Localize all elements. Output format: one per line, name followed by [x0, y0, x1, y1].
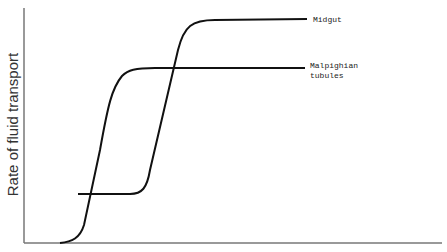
chart-root: Rate of fluid transport Midgut Malpighia… [0, 0, 447, 252]
series-malpighian-tubules [60, 68, 305, 243]
legend-malpighian-line1: Malpighian [310, 61, 358, 71]
legend-malpighian-line2: tubules [310, 71, 358, 81]
legend-midgut: Midgut [313, 15, 342, 25]
y-axis-label: Rate of fluid transport [4, 45, 21, 205]
series-midgut [78, 19, 307, 194]
chart-plot [0, 0, 447, 252]
legend-malpighian: Malpighian tubules [310, 61, 358, 81]
